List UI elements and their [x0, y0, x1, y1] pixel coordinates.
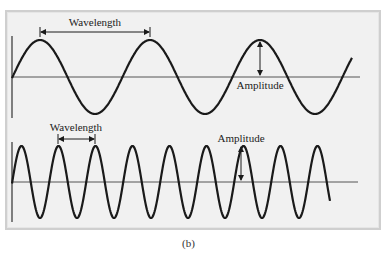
- figure-caption: (b): [182, 237, 195, 249]
- top-wave-group: Wavelength Amplitude: [12, 16, 360, 118]
- bottom-amplitude-label: Amplitude: [217, 132, 264, 144]
- waves-svg: Wavelength Amplitude Wavelength Amplitud…: [0, 0, 388, 253]
- bottom-wave-group: Wavelength Amplitude: [12, 121, 358, 222]
- wave-diagram: Wavelength Amplitude Wavelength Amplitud…: [0, 0, 388, 253]
- top-wavelength-label: Wavelength: [69, 16, 122, 28]
- top-amplitude-label: Amplitude: [236, 79, 283, 91]
- bottom-wavelength-label: Wavelength: [50, 121, 103, 133]
